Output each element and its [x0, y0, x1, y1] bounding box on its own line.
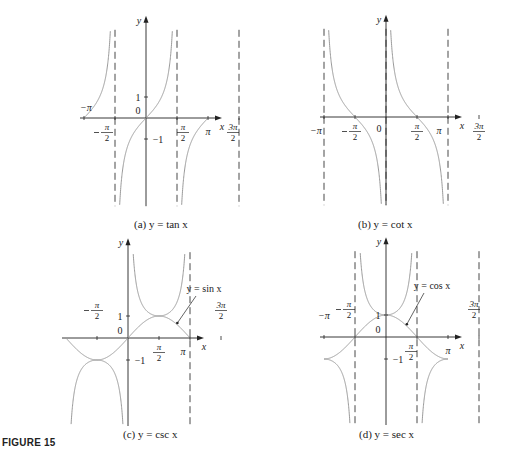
tick-label: 1 [376, 310, 381, 321]
y-axis-arrow-icon [384, 237, 389, 244]
tick-label: 1 [118, 311, 123, 322]
fraction-tick-label: π2 [153, 342, 165, 363]
tick-label: 2 [409, 352, 414, 362]
tick-label: 3π [473, 121, 484, 131]
tick-label: 2 [472, 310, 477, 320]
x-axis-label: x [459, 120, 465, 131]
tick-label: −1 [153, 134, 164, 145]
tick-label: 0 [376, 324, 381, 335]
tick-label: π [205, 126, 211, 137]
plot-tan: xy−ππ2π2π3π210−1 [80, 15, 239, 206]
tick-label: π [436, 125, 442, 136]
caption-cot: (b) y = cot x [358, 218, 412, 230]
tick-label: π [180, 346, 186, 357]
y-axis-arrow-icon [144, 16, 149, 23]
x-axis-arrow-icon [455, 335, 462, 340]
tick-label: −π [310, 125, 323, 136]
x-axis-label: x [219, 121, 225, 132]
tick-label: −π [318, 310, 331, 321]
y-axis-label: y [118, 237, 124, 248]
tick-label: −1 [135, 355, 146, 366]
tick-label: −π [80, 102, 93, 113]
tick-label: 2 [181, 133, 186, 143]
tick-label: 2 [415, 132, 420, 142]
tick-label: −1 [393, 354, 404, 365]
fraction-tick-label: π2 [342, 121, 361, 142]
tick-label: 0 [377, 123, 382, 134]
tick-label: 0 [118, 325, 123, 336]
x-axis-arrow-icon [197, 336, 204, 341]
annotation-pointer [407, 293, 424, 324]
tick-label: π [157, 342, 162, 352]
plot-sec: xy−ππ2π2π3π210−1y = cos x [318, 236, 480, 425]
tick-label: 3π [227, 122, 238, 132]
tick-label: 2 [105, 133, 110, 143]
x-axis-arrow-icon [215, 116, 222, 121]
tick-label: π [95, 300, 100, 310]
fraction-tick-label: π2 [405, 341, 417, 362]
fraction-tick-label: 3π2 [227, 122, 239, 143]
tick-label: 1 [136, 92, 141, 103]
y-axis-arrow-icon [384, 15, 389, 22]
plot-csc: xyπ2π2π3π210−1y = sin x [62, 237, 227, 426]
x-axis-label: x [459, 340, 465, 351]
caption-sec: (d) y = sec x [359, 428, 414, 440]
figure-label: FIGURE 15 [2, 436, 56, 448]
tick-label: 2 [157, 353, 162, 363]
overlay-label: y = cos x [414, 280, 450, 291]
fraction-tick-label: π2 [84, 300, 103, 321]
x-axis-arrow-icon [455, 115, 462, 120]
fraction-tick-label: 3π2 [215, 300, 227, 321]
fraction-tick-label: π2 [411, 121, 423, 142]
tick-label: 0 [136, 105, 141, 116]
tick-label: π [105, 122, 110, 132]
fraction-tick-label: 3π2 [468, 299, 480, 320]
x-axis-label: x [201, 341, 207, 352]
tick-label: π [445, 345, 451, 356]
fraction-tick-label: π2 [336, 299, 355, 320]
annotation-dot [406, 323, 409, 326]
annotation-dot [176, 322, 179, 325]
y-axis-label: y [136, 15, 142, 26]
caption-tan: (a) y = tan x [134, 218, 188, 230]
y-axis-label: y [376, 14, 382, 25]
y-axis-arrow-icon [126, 238, 131, 245]
plot-cot: xy−ππ20π2π3π2 [310, 14, 485, 205]
tick-label: π [181, 122, 186, 132]
tick-label: 2 [219, 311, 224, 321]
tick-label: π [415, 121, 420, 131]
annotation-pointer [177, 296, 196, 323]
y-axis-label: y [376, 236, 382, 247]
tick-label: π [409, 341, 414, 351]
tick-label: 2 [95, 311, 100, 321]
figure-canvas: xy−ππ2π2π3π210−1 xy−ππ20π2π3π2 xyπ2π2π3π… [0, 0, 524, 476]
tick-label: π [347, 299, 352, 309]
fraction-tick-label: 3π2 [473, 121, 485, 142]
fraction-tick-label: π2 [177, 122, 189, 143]
tick-label: 3π [215, 300, 226, 310]
overlay-label: y = sin x [187, 283, 222, 294]
caption-csc: (c) y = csc x [123, 428, 177, 440]
tick-label: 2 [477, 132, 482, 142]
tick-label: 2 [231, 133, 236, 143]
fraction-tick-label: π2 [94, 122, 113, 143]
tick-label: π [353, 121, 358, 131]
tick-label: 3π [468, 299, 479, 309]
tick-label: 2 [347, 310, 352, 320]
tick-label: 2 [353, 132, 358, 142]
